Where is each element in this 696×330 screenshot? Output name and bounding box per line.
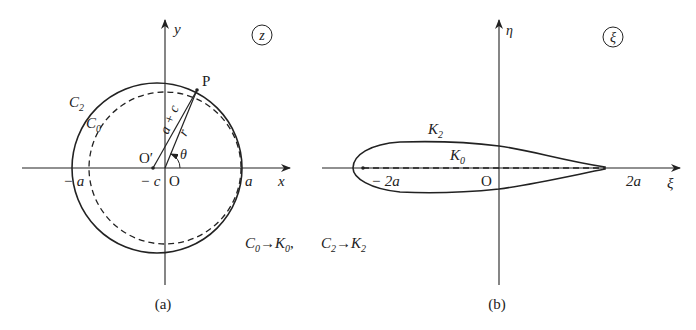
theta-label: θ <box>180 147 187 162</box>
origin-o-label: O <box>169 173 180 189</box>
conformal-map-diagram: y z P C2 C0 a + c r O′ θ − a − c O a x (… <box>0 0 696 330</box>
plane-xi-label: ξ <box>610 30 616 45</box>
x-axis-label: x <box>277 173 285 189</box>
caption-b: (b) <box>488 296 506 313</box>
caption-a: (a) <box>155 296 172 313</box>
theta-arc <box>171 154 180 168</box>
o-prime-label: O′ <box>139 150 153 166</box>
origin-o-label-b: O <box>481 173 492 189</box>
mapping-c0-k0: C0→K0, <box>245 235 294 254</box>
y-axis-label: y <box>172 21 181 37</box>
mapping-c2-k2: C2→K2 <box>321 235 366 254</box>
tick-neg-c: − c <box>140 173 161 189</box>
point-neg-2a-dot <box>361 166 365 170</box>
panel-b: η ξ K2 K0 − 2a O 2a ξ (b) <box>322 20 680 313</box>
point-p-dot <box>195 88 199 92</box>
k0-label: K0 <box>449 147 465 166</box>
mapping-legend: C0→K0, C2→K2 <box>245 235 366 254</box>
tick-neg-2a: − 2a <box>371 173 400 189</box>
point-o-prime-dot <box>151 166 155 170</box>
point-p-label: P <box>202 73 210 89</box>
tick-neg-a: − a <box>63 173 84 189</box>
c2-label: C2 <box>69 94 84 113</box>
tick-a: a <box>245 173 253 189</box>
c0-label: C0 <box>86 115 101 134</box>
xi-axis-label: ξ <box>667 175 674 191</box>
tick-2a: 2a <box>626 173 641 189</box>
eta-axis-label: η <box>506 23 513 38</box>
panel-a: y z P C2 C0 a + c r O′ θ − a − c O a x (… <box>22 20 290 313</box>
k2-label: K2 <box>427 121 443 140</box>
plane-z-label: z <box>258 28 265 43</box>
